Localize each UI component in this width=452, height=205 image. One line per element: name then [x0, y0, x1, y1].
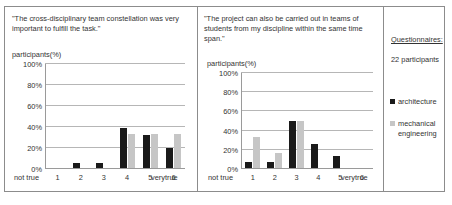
chart-right-plot-area: 0%20%40%60%80%100% — [241, 73, 373, 169]
legend-sidebar: Questionnaires: 22 participants architec… — [384, 7, 444, 191]
bar — [333, 156, 340, 168]
x-tick-label: 2 — [69, 173, 92, 182]
bar — [143, 135, 150, 168]
x-tick-label: 4 — [307, 173, 329, 182]
legend-swatch-icon — [390, 121, 395, 126]
chart-panel-right: "The project can also be carried out in … — [198, 7, 384, 191]
y-tick-label: 40% — [27, 123, 42, 132]
bar-category-group — [351, 73, 373, 168]
bar — [275, 153, 282, 168]
y-tick-label: 20% — [223, 145, 238, 154]
y-tick-label: 80% — [223, 88, 238, 97]
chart-left-y-axis-label: participants(%) — [12, 50, 61, 59]
bar-category-group — [242, 73, 264, 168]
bar-category-group — [139, 64, 162, 168]
chart-left-x-caption-high: verytrue — [151, 173, 178, 182]
chart-right-title: "The project can also be carried out in … — [204, 14, 380, 45]
bar — [174, 134, 181, 168]
bar-category-group — [116, 64, 139, 168]
chart-right-y-axis-label: participants(%) — [207, 59, 256, 68]
bar-category-group — [162, 64, 185, 168]
y-tick-label: 60% — [27, 102, 42, 111]
x-tick-label: 3 — [286, 173, 308, 182]
bar — [73, 163, 80, 168]
participants-count: 22 participants — [391, 55, 439, 64]
chart-right-x-caption-low: not true — [208, 173, 233, 182]
bar-category-group — [92, 64, 115, 168]
questionnaires-heading: Questionnaires: — [391, 35, 443, 44]
bar — [267, 162, 274, 168]
bar-category-group — [329, 73, 351, 168]
chart-left-plot-area: 0%20%40%60%80%100% — [45, 64, 185, 169]
x-axis-line — [45, 168, 185, 169]
bar-category-group — [46, 64, 69, 168]
bar — [311, 144, 318, 168]
series-legend: architecturemechanical engineering — [390, 97, 444, 151]
x-axis-line — [241, 168, 373, 169]
legend-item: architecture — [390, 97, 444, 106]
chart-left-x-caption-low: not true — [14, 173, 39, 182]
bar — [166, 148, 173, 168]
x-tick-label: 3 — [92, 173, 115, 182]
bar — [128, 134, 135, 168]
y-tick-label: 100% — [219, 69, 238, 78]
legend-swatch-icon — [390, 99, 395, 104]
bar-group-container — [46, 64, 185, 168]
x-tick-label: 4 — [116, 173, 139, 182]
x-tick-label: 1 — [46, 173, 69, 182]
bar-category-group — [286, 73, 308, 168]
chart-panel-left: "The cross-disciplinary team constellati… — [5, 7, 198, 191]
bar — [151, 134, 158, 168]
chart-left-title: "The cross-disciplinary team constellati… — [12, 14, 192, 34]
bar — [245, 162, 252, 168]
bar — [289, 121, 296, 169]
bar — [96, 163, 103, 168]
y-tick-label: 60% — [223, 107, 238, 116]
questionnaire-results-figure: "The cross-disciplinary team constellati… — [4, 6, 445, 192]
legend-item: mechanical engineering — [390, 119, 444, 138]
legend-label: architecture — [398, 97, 437, 106]
bar — [253, 137, 260, 168]
y-tick-label: 40% — [223, 126, 238, 135]
bar-category-group — [264, 73, 286, 168]
bar-group-container — [242, 73, 373, 168]
y-tick-label: 100% — [23, 60, 42, 69]
y-tick-label: 80% — [27, 81, 42, 90]
bar — [297, 121, 304, 169]
chart-right-x-caption-high: verytrue — [341, 173, 368, 182]
x-tick-label: 1 — [242, 173, 264, 182]
bar — [120, 128, 127, 168]
y-tick-label: 20% — [27, 144, 42, 153]
bar-category-group — [69, 64, 92, 168]
x-tick-label: 2 — [264, 173, 286, 182]
legend-label: mechanical engineering — [398, 119, 444, 138]
bar-category-group — [307, 73, 329, 168]
